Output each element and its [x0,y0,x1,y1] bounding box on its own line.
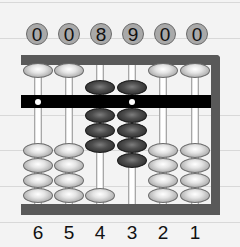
earth-bead-col4[interactable] [85,188,115,203]
unit-dot-marker [129,99,135,105]
column-label: 5 [59,222,79,244]
earth-bead-col2[interactable] [148,173,178,188]
earth-bead-col1[interactable] [180,173,210,188]
earth-bead-col3-active[interactable] [117,108,147,123]
earth-bead-col3-active[interactable] [117,138,147,153]
earth-bead-col6[interactable] [23,188,53,203]
heaven-bead-col6[interactable] [23,63,53,78]
earth-bead-col4-active[interactable] [85,108,115,123]
heaven-bead-col1[interactable] [180,63,210,78]
earth-bead-col5[interactable] [54,143,84,158]
reckoning-bar [21,95,211,108]
value-digit-col6: 0 [26,23,48,45]
earth-bead-col2[interactable] [148,158,178,173]
earth-bead-col1[interactable] [180,143,210,158]
earth-bead-col2[interactable] [148,143,178,158]
frame-bottom [21,204,220,215]
background-line [0,2,240,3]
earth-bead-col1[interactable] [180,158,210,173]
column-label: 4 [90,222,110,244]
earth-bead-col2[interactable] [148,188,178,203]
earth-bead-col6[interactable] [23,143,53,158]
earth-bead-col1[interactable] [180,188,210,203]
earth-bead-col3-active[interactable] [117,153,147,168]
heaven-bead-col3-active[interactable] [117,80,147,95]
frame-right [211,55,220,215]
earth-bead-col4-active[interactable] [85,138,115,153]
earth-bead-col3-active[interactable] [117,123,147,138]
column-label: 1 [185,222,205,244]
value-digit-col1: 0 [186,23,208,45]
heaven-bead-col4-active[interactable] [85,80,115,95]
earth-bead-col5[interactable] [54,188,84,203]
column-label: 6 [28,222,48,244]
value-digit-col4: 8 [90,23,112,45]
unit-dot-marker [35,99,41,105]
column-label: 2 [153,222,173,244]
value-digit-col2: 0 [154,23,176,45]
value-digit-col5: 0 [58,23,80,45]
earth-bead-col6[interactable] [23,173,53,188]
earth-bead-col5[interactable] [54,173,84,188]
earth-bead-col4-active[interactable] [85,123,115,138]
earth-bead-col6[interactable] [23,158,53,173]
heaven-bead-col5[interactable] [54,63,84,78]
value-digit-col3: 9 [122,23,144,45]
earth-bead-col5[interactable] [54,158,84,173]
heaven-bead-col2[interactable] [148,63,178,78]
column-label: 3 [122,222,142,244]
